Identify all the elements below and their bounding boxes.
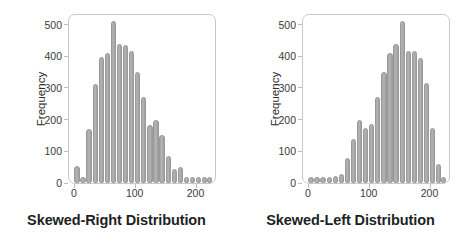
histogram-bar	[327, 177, 332, 183]
x-axis-tick-mark	[135, 184, 136, 188]
histogram-bar	[172, 169, 177, 183]
histogram-bar	[308, 177, 313, 183]
y-axis-tick-mark	[298, 56, 302, 57]
y-axis-tick-mark	[64, 183, 68, 184]
histogram-bar	[363, 128, 368, 183]
y-axis-tick-label: 400	[264, 51, 296, 61]
histogram-bar	[141, 97, 146, 183]
histogram-bar	[345, 158, 350, 183]
chart-caption: Skewed-Left Distribution	[234, 212, 467, 228]
histogram-bar	[123, 45, 128, 183]
x-axis-tick-mark	[430, 184, 431, 188]
chart-panel-skewed-left: Frequency01002003004005000100200Skewed-L…	[234, 0, 467, 247]
y-axis-tick-mark	[64, 24, 68, 25]
x-axis-tick-label: 100	[349, 188, 389, 199]
y-axis-tick-label: 0	[264, 178, 296, 188]
y-axis-label-wrap: Frequency	[22, 14, 42, 184]
histogram-bar	[369, 124, 374, 183]
histogram-bar	[159, 135, 164, 183]
histogram-bar	[424, 83, 429, 183]
histogram-bar	[441, 177, 446, 183]
y-axis-tick-mark	[298, 151, 302, 152]
y-axis-tick-mark	[298, 119, 302, 120]
y-axis-label-wrap: Frequency	[256, 14, 276, 184]
histogram-bars	[69, 15, 215, 183]
chart-caption: Skewed-Right Distribution	[0, 212, 233, 228]
histogram-bar	[418, 58, 423, 183]
histogram-bar	[430, 128, 435, 183]
histogram-bar	[117, 44, 122, 183]
y-axis-tick-label: 200	[30, 115, 62, 125]
figure-root: Frequency01002003004005000100200Skewed-R…	[0, 0, 467, 247]
y-axis-tick-label: 200	[264, 115, 296, 125]
x-axis-tick-mark	[308, 184, 309, 188]
y-axis-tick-mark	[64, 151, 68, 152]
histogram-bar	[400, 21, 405, 183]
y-axis-tick-label: 100	[30, 146, 62, 156]
histogram-bar	[135, 72, 140, 183]
histogram-bar	[147, 125, 152, 183]
histogram-bar	[111, 21, 116, 183]
histogram-bar	[178, 167, 183, 183]
histogram-bar	[351, 139, 356, 183]
y-axis-tick-label: 300	[264, 83, 296, 93]
histogram-bar	[320, 177, 325, 183]
histogram-bar	[207, 177, 212, 183]
histogram-bar	[196, 177, 201, 183]
histogram-bar	[166, 156, 171, 183]
histogram-bar	[93, 84, 98, 183]
histogram-bar	[381, 72, 386, 183]
y-axis-tick-mark	[64, 119, 68, 120]
y-axis-tick-label: 0	[30, 178, 62, 188]
histogram-bar	[129, 51, 134, 183]
x-axis-tick-mark	[369, 184, 370, 188]
x-axis-tick-mark	[196, 184, 197, 188]
histogram-bar	[387, 53, 392, 183]
histogram-bar	[333, 176, 338, 183]
x-axis-tick-label: 0	[288, 188, 328, 199]
histogram-bar	[153, 120, 158, 183]
histogram-bar	[190, 177, 195, 183]
x-axis-tick-label: 100	[115, 188, 155, 199]
x-axis-tick-label: 200	[410, 188, 450, 199]
y-axis-tick-label: 500	[264, 20, 296, 30]
histogram-bar	[74, 166, 79, 183]
x-axis-tick-label: 0	[54, 188, 94, 199]
histogram-bar	[86, 129, 91, 183]
histogram-bar	[184, 177, 189, 183]
histogram-bar	[80, 177, 85, 183]
histogram-bar	[406, 51, 411, 183]
y-axis-tick-label: 100	[264, 146, 296, 156]
histogram-bar	[339, 174, 344, 184]
histogram-bars	[303, 15, 449, 183]
y-axis-tick-mark	[298, 87, 302, 88]
y-axis-tick-mark	[298, 183, 302, 184]
y-axis-tick-label: 500	[30, 20, 62, 30]
y-axis-tick-mark	[64, 56, 68, 57]
histogram-bar	[412, 51, 417, 183]
x-axis-tick-mark	[74, 184, 75, 188]
y-axis-tick-label: 300	[30, 83, 62, 93]
histogram-bar	[375, 97, 380, 183]
histogram-bar	[357, 120, 362, 183]
histogram-bar	[105, 53, 110, 183]
histogram-bar	[393, 44, 398, 183]
x-axis-tick-label: 200	[176, 188, 216, 199]
y-axis-tick-label: 400	[30, 51, 62, 61]
histogram-bar	[99, 57, 104, 183]
y-axis-tick-mark	[298, 24, 302, 25]
histogram-bar	[314, 177, 319, 183]
chart-panel-skewed-right: Frequency01002003004005000100200Skewed-R…	[0, 0, 233, 247]
y-axis-tick-mark	[64, 87, 68, 88]
